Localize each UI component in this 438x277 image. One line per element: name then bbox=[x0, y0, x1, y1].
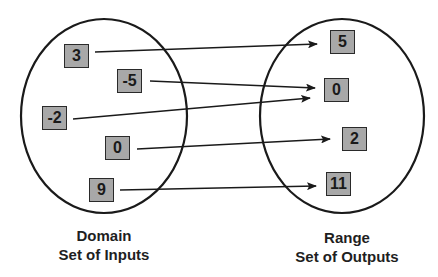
domain-value-box: 9 bbox=[89, 178, 114, 202]
range-subtitle: Set of Outputs bbox=[277, 247, 417, 266]
range-value-box: 0 bbox=[324, 78, 349, 102]
domain-value-box: 0 bbox=[105, 136, 130, 160]
domain-value-box: -2 bbox=[42, 106, 67, 130]
domain-value-box: 3 bbox=[64, 44, 89, 68]
range-value-box: 11 bbox=[326, 172, 351, 196]
domain-caption: Domain Set of Inputs bbox=[34, 226, 174, 264]
domain-value-box: -5 bbox=[117, 69, 142, 93]
range-value-box: 2 bbox=[342, 127, 367, 151]
range-caption: Range Set of Outputs bbox=[277, 228, 417, 266]
range-title: Range bbox=[277, 228, 417, 247]
domain-title: Domain bbox=[34, 226, 174, 245]
arrow-neg5-to-0 bbox=[150, 81, 315, 88]
range-value-box: 5 bbox=[330, 30, 355, 54]
arrow-0-to-2 bbox=[137, 139, 330, 149]
domain-subtitle: Set of Inputs bbox=[34, 245, 174, 264]
arrow-neg2-to-0 bbox=[73, 98, 310, 119]
